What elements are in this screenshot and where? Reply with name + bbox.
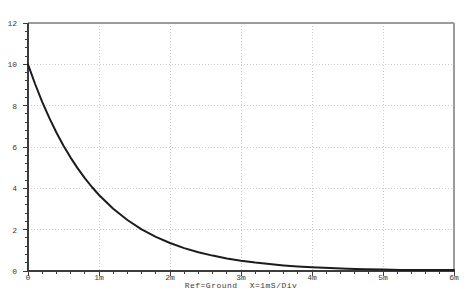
y-tick-label: 8: [0, 102, 17, 111]
y-tick-label: 10: [0, 60, 17, 69]
y-tick-label: 12: [0, 19, 17, 28]
y-tick-label: 0: [0, 267, 17, 276]
y-tick-label: 6: [0, 143, 17, 152]
y-tick-label: 2: [0, 226, 17, 235]
x-scale-label: X=1mS/Div: [250, 281, 298, 290]
ref-ground-label: Ref=Ground: [185, 281, 238, 290]
y-tick-label: 4: [0, 184, 17, 193]
axis-caption: Ref=GroundX=1mS/Div: [28, 281, 454, 290]
oscilloscope-trace-screenshot: 024681012 01m2m3m4m5m6m Ref=GroundX=1mS/…: [0, 0, 475, 301]
plot-canvas: [0, 0, 475, 301]
